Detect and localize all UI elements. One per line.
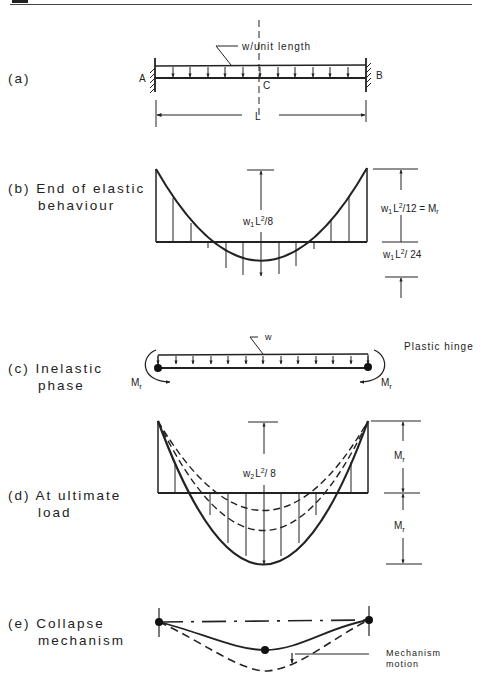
span-l-label: L [255,111,261,122]
mechanism-motion-label-1: Mechanism [386,648,441,658]
distributed-load-arrows-c [158,356,368,364]
moment-label-left: Mr [131,377,142,391]
upper-moment-label-d: Mr [394,450,405,464]
panel-e-mechanism [159,606,369,671]
beam-diagram: w/unit length A B C L w1L [0,0,488,682]
mid-moment-label-b: w1L2/ 24 [382,248,422,261]
support-a-label: A [139,73,146,84]
mechanism-motion-label-2: motion [386,659,419,669]
panel-b-moment-diagram [156,168,418,298]
moment-label-right: Mr [381,377,392,391]
load-label-c: w [264,332,272,342]
hinge-right-e [365,616,373,624]
midspan-moment-label-b: w1L2/8 [242,215,273,228]
lower-moment-label-d: Mr [394,520,405,534]
panel-d-moment-diagram [158,421,422,565]
collapse-shape [159,620,369,671]
panel-c-beam [145,337,384,382]
support-b-label: B [376,70,383,81]
plastic-hinge-right [364,363,372,371]
deflected-shape [159,620,369,650]
midpoint-c-label: C [263,80,270,91]
load-label: w/unit length [241,41,311,52]
intermediate-moment-curve-1 [158,421,368,531]
original-beam-axis [159,620,369,622]
hinge-left-e [155,618,163,626]
end-moment-label-b: w1L2/12 = Mr [380,202,439,215]
plastic-hinge-label: Plastic hinge [404,341,474,352]
hinge-mid-e [261,646,269,654]
midspan-moment-label-d: w2L2/ 8 [242,467,276,480]
plastic-hinge-left [154,364,162,372]
intermediate-moment-curve-2 [158,421,368,511]
distributed-load-arrows [173,67,348,77]
